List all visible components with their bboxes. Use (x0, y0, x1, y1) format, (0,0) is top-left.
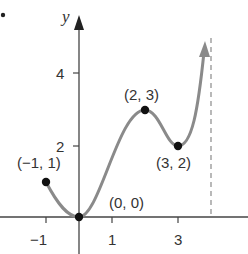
graph-figure: y 4 2 −1 1 3 (−1, 1) (0, 0) (2, 3) (3, 2… (0, 0, 248, 254)
point-2-3 (141, 106, 149, 114)
point-label-2-3: (2, 3) (124, 86, 159, 103)
curve-arrow-icon (199, 41, 210, 57)
point-label-3-2: (3, 2) (156, 154, 191, 171)
point-m1-1 (42, 178, 50, 186)
y-axis-label: y (60, 7, 70, 26)
point-label-m1-1: (−1, 1) (17, 154, 61, 171)
chart-svg: y 4 2 −1 1 3 (−1, 1) (0, 0) (2, 3) (3, 2… (0, 0, 248, 254)
point-3-2 (174, 142, 182, 150)
y-tick-label-4: 4 (56, 65, 64, 82)
x-tick-label-3: 3 (174, 231, 182, 248)
point-0-0 (75, 213, 83, 221)
bullet-dot (1, 13, 5, 17)
function-curve (46, 52, 204, 217)
x-tick-label-1: 1 (108, 231, 116, 248)
point-label-0-0: (0, 0) (109, 194, 144, 211)
x-tick-label-m1: −1 (30, 231, 47, 248)
y-tick-label-2: 2 (56, 138, 64, 155)
y-axis-arrow-icon (74, 15, 84, 30)
